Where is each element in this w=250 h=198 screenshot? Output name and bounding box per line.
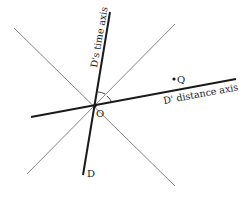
angle-arc-time [98,92,105,94]
event-q-point [172,77,175,80]
origin-label: O [96,108,104,119]
observer-d-label: D [87,168,95,179]
spacetime-diagram: Q O D D's time axis D' distance axis [0,0,250,198]
event-q-label: Q [177,74,185,85]
